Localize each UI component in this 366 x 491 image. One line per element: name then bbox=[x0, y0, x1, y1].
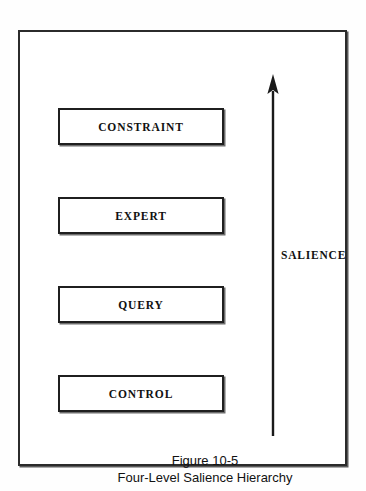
level-label: CONSTRAINT bbox=[98, 121, 184, 133]
diagram-frame: CONSTRAINT EXPERT QUERY CONTROL SALIENCE… bbox=[18, 30, 347, 466]
level-box-constraint[interactable]: CONSTRAINT bbox=[58, 108, 224, 145]
figure-caption: Figure 10-5 Four-Level Salience Hierarch… bbox=[60, 452, 350, 486]
level-box-query[interactable]: QUERY bbox=[58, 286, 224, 323]
level-box-control[interactable]: CONTROL bbox=[58, 375, 224, 412]
level-label: CONTROL bbox=[109, 388, 173, 400]
caption-line-2: Four-Level Salience Hierarchy bbox=[60, 469, 350, 486]
level-label: EXPERT bbox=[115, 210, 167, 222]
salience-axis-label: SALIENCE bbox=[281, 249, 346, 261]
figure-page: CONSTRAINT EXPERT QUERY CONTROL SALIENCE… bbox=[0, 0, 366, 491]
level-label: QUERY bbox=[118, 299, 164, 311]
caption-line-1: Figure 10-5 bbox=[60, 452, 350, 469]
level-box-expert[interactable]: EXPERT bbox=[58, 197, 224, 234]
